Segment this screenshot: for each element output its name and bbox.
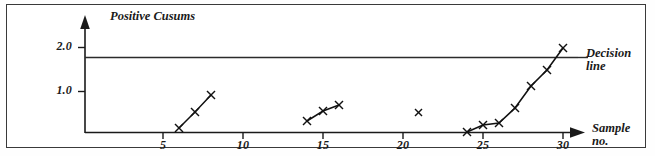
marker-x-group bbox=[415, 109, 422, 116]
series-run-1 bbox=[175, 91, 215, 132]
x-tick-label-5: 5 bbox=[143, 139, 183, 152]
x-axis-arrow-icon bbox=[570, 127, 585, 137]
x-axis bbox=[85, 127, 585, 137]
x-tick-label-20: 20 bbox=[383, 139, 423, 152]
x-tick-label-15: 15 bbox=[303, 139, 343, 152]
y-tick-label-2: 2.0 bbox=[32, 40, 72, 53]
marker-x-group bbox=[175, 91, 215, 132]
series-run-2 bbox=[303, 101, 343, 125]
decision-line-label-line-2: line bbox=[586, 60, 631, 73]
decision-line-label: Decision line bbox=[586, 47, 631, 73]
x-axis-title-line-2: no. bbox=[592, 135, 630, 148]
x-tick-label-10: 10 bbox=[223, 139, 263, 152]
y-axis bbox=[80, 15, 90, 133]
y-axis-title: Positive Cusums bbox=[110, 10, 195, 23]
cusum-chart-plot bbox=[0, 0, 655, 156]
marker-x-group bbox=[303, 101, 343, 125]
y-tick-label-1: 1.0 bbox=[32, 84, 72, 97]
y-axis-ticks bbox=[78, 48, 85, 92]
x-tick-label-25: 25 bbox=[463, 139, 503, 152]
series-run-3 bbox=[415, 109, 422, 116]
x-axis-title: Sample no. bbox=[592, 122, 630, 148]
x-tick-label-30: 30 bbox=[543, 139, 583, 152]
y-axis-arrow-icon bbox=[80, 15, 90, 29]
figure-container: Positive Cusums 2.0 1.0 5 10 15 20 25 30… bbox=[0, 0, 655, 156]
